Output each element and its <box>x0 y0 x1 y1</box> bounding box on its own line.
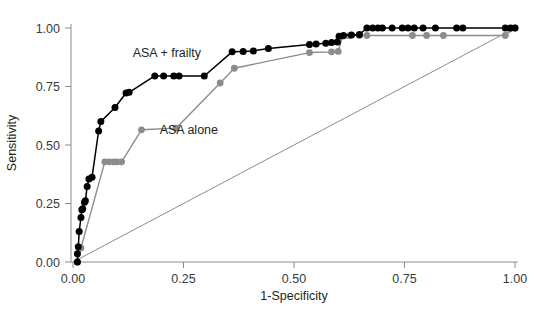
roc-data-point <box>111 104 118 111</box>
roc-data-point <box>265 45 272 52</box>
series-annotation-asa-alone: ASA alone <box>160 123 218 137</box>
roc-data-point <box>502 32 509 39</box>
roc-data-point <box>79 205 86 212</box>
roc-data-point <box>409 32 416 39</box>
roc-data-point <box>74 259 81 266</box>
roc-data-point <box>240 48 247 55</box>
roc-data-point <box>118 158 125 165</box>
roc-data-point <box>389 25 396 32</box>
roc-data-point <box>313 40 320 47</box>
x-tick-label: 0.25 <box>171 272 195 286</box>
roc-data-point <box>411 25 418 32</box>
roc-data-point <box>97 118 104 125</box>
roc-data-point <box>82 197 89 204</box>
y-tick-label: 0.50 <box>36 139 60 153</box>
y-tick-label: 0.25 <box>36 197 60 211</box>
roc-data-point <box>340 32 347 39</box>
roc-data-point <box>512 25 519 32</box>
roc-data-point <box>217 80 224 87</box>
roc-data-point <box>151 72 158 79</box>
roc-data-point <box>459 25 466 32</box>
roc-data-point <box>138 126 145 133</box>
roc-data-point <box>126 89 133 96</box>
roc-data-point <box>231 65 238 72</box>
roc-data-point <box>440 32 447 39</box>
roc-data-point <box>335 48 342 55</box>
roc-data-point <box>328 48 335 55</box>
roc-data-point <box>77 214 84 221</box>
roc-data-point <box>95 127 102 134</box>
y-axis-title: Sensitivity <box>5 114 19 171</box>
roc-data-point <box>306 41 313 48</box>
roc-data-point <box>250 47 257 54</box>
roc-data-point <box>379 25 386 32</box>
y-tick-label: 0.00 <box>36 256 60 270</box>
series-annotation-asa-frailty: ASA + frailty <box>133 46 202 60</box>
x-axis-title: 1-Specificity <box>260 289 328 303</box>
roc-data-point <box>405 25 412 32</box>
y-tick-label: 1.00 <box>36 22 60 36</box>
roc-data-point <box>201 72 208 79</box>
roc-chart-figure: 0.000.250.500.751.00 0.000.250.500.751.0… <box>0 0 534 312</box>
x-tick-label: 0.50 <box>282 272 306 286</box>
y-tick-label: 0.75 <box>36 80 60 94</box>
roc-data-point <box>160 72 167 79</box>
x-tick-label: 0.00 <box>61 272 85 286</box>
roc-data-point <box>76 228 83 235</box>
roc-data-point <box>176 72 183 79</box>
roc-data-point <box>348 32 355 39</box>
roc-plot-svg: 0.000.250.500.751.00 0.000.250.500.751.0… <box>0 0 534 312</box>
roc-data-point <box>356 31 363 38</box>
roc-data-point <box>420 25 427 32</box>
roc-data-point <box>75 243 82 250</box>
roc-data-point <box>89 174 96 181</box>
roc-data-point <box>364 32 371 39</box>
roc-data-point <box>84 183 91 190</box>
x-tick-label: 1.00 <box>503 272 527 286</box>
roc-data-point <box>453 25 460 32</box>
x-tick-label: 0.75 <box>392 272 416 286</box>
roc-data-point <box>423 32 430 39</box>
roc-data-point <box>74 250 81 257</box>
roc-data-point <box>432 25 439 32</box>
roc-data-point <box>306 49 313 56</box>
roc-data-point <box>229 48 236 55</box>
